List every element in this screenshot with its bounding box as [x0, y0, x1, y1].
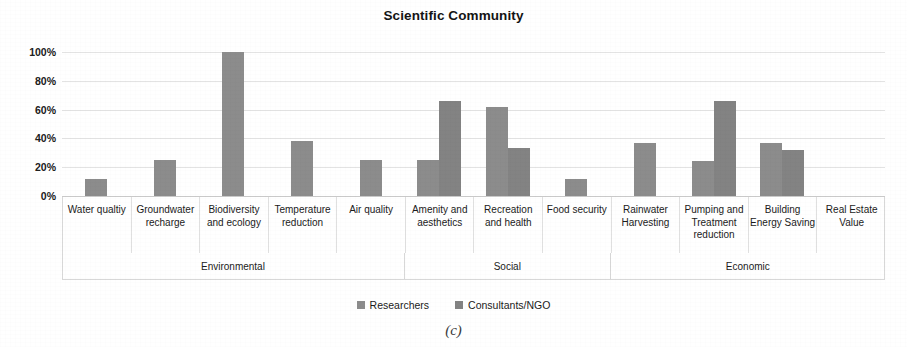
group-label-band: EnvironmentalSocialEconomic [62, 253, 885, 280]
figure-caption: (c) [0, 322, 907, 339]
bar [692, 161, 714, 196]
x-axis-category-label: Rainwater Harvesting [612, 197, 681, 253]
x-axis-group-label: Environmental [62, 253, 405, 280]
bar [714, 101, 736, 196]
bar [85, 179, 107, 196]
chart-title: Scientific Community [0, 8, 907, 23]
y-axis-tick-label: 40% [4, 132, 56, 144]
x-axis-category-label: Food security [543, 197, 612, 253]
x-axis-category-label: Air quality [337, 197, 406, 253]
gridline [62, 81, 885, 82]
legend-item-label: Researchers [370, 299, 430, 311]
bar [360, 160, 382, 196]
x-axis-category-label: Building Energy Saving [749, 197, 818, 253]
plot-area [62, 52, 885, 196]
bar [486, 107, 508, 196]
bar [782, 150, 804, 196]
x-axis-category-label: Biodiversity and ecology [200, 197, 269, 253]
gridline [62, 110, 885, 111]
y-axis-tick-label: 0% [4, 190, 56, 202]
legend-item-label: Consultants/NGO [468, 299, 550, 311]
y-axis-tick-label: 80% [4, 75, 56, 87]
gridline [62, 52, 885, 53]
bar [222, 52, 244, 196]
x-axis-category-label: Water qualtiy [63, 197, 132, 253]
bar [634, 143, 656, 196]
legend-item[interactable]: Consultants/NGO [455, 299, 550, 311]
y-axis: 0%20%40%60%80%100% [0, 52, 56, 196]
gridline [62, 138, 885, 139]
y-axis-tick-label: 20% [4, 161, 56, 173]
y-axis-tick-label: 60% [4, 104, 56, 116]
y-axis-tick-label: 100% [4, 46, 56, 58]
legend-item[interactable]: Researchers [357, 299, 430, 311]
x-axis-group-label: Social [405, 253, 611, 280]
bar [439, 101, 461, 196]
legend-swatch-icon [357, 301, 365, 309]
x-axis-category-label: Recreation and health [475, 197, 544, 253]
bar [417, 160, 439, 196]
bar [565, 179, 587, 196]
chart-legend: ResearchersConsultants/NGO [0, 299, 907, 311]
figure-container: Scientific Community 0%20%40%60%80%100% … [0, 0, 907, 347]
x-axis-group-label: Economic [611, 253, 885, 280]
x-axis-category-label: Amenity and aesthetics [406, 197, 475, 253]
bar [508, 148, 530, 196]
bar [291, 141, 313, 196]
legend-swatch-icon [455, 301, 463, 309]
x-axis-category-label: Real Estate Value [817, 197, 886, 253]
x-axis-category-label: Temperature reduction [269, 197, 338, 253]
bar [154, 160, 176, 196]
bar [760, 143, 782, 196]
x-axis-category-label: Pumping and Treatment reduction [680, 197, 749, 253]
x-axis-category-label: Groundwater recharge [132, 197, 201, 253]
